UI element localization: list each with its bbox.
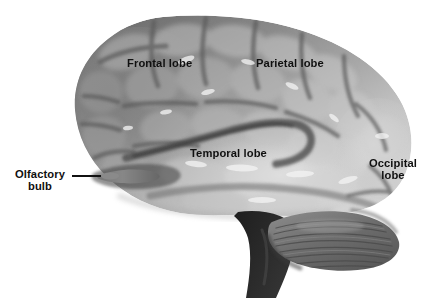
label-occipital-line2: lobe — [381, 169, 404, 181]
label-olfactory-bulb: Olfactory bulb — [10, 168, 70, 193]
label-temporal-lobe: Temporal lobe — [190, 147, 267, 160]
label-olfactory-line1: Olfactory — [15, 168, 65, 180]
olfactory-bulb-leader-line — [72, 175, 101, 177]
label-parietal-lobe: Parietal lobe — [256, 57, 324, 70]
label-occipital-lobe: Occipital lobe — [364, 157, 422, 182]
cerebrum — [60, 0, 424, 232]
brain-diagram-figure: Frontal lobe Parietal lobe Temporal lobe… — [0, 0, 432, 298]
label-occipital-line1: Occipital — [369, 157, 417, 169]
label-olfactory-line2: bulb — [28, 180, 52, 192]
cerebellum — [268, 211, 399, 270]
label-frontal-lobe: Frontal lobe — [127, 57, 192, 70]
